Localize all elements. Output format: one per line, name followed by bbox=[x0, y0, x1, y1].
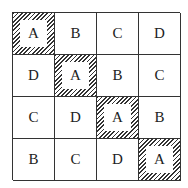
cell-letter: B bbox=[154, 109, 164, 126]
cell-letter: C bbox=[70, 151, 80, 168]
cell-letter: D bbox=[70, 109, 81, 126]
latin-square-grid: A B C D D A B C C D A B B C D A bbox=[12, 12, 180, 180]
grid-cell-highlighted: A bbox=[97, 97, 139, 139]
cell-letter: A bbox=[70, 67, 81, 84]
grid-cell: B bbox=[139, 97, 181, 139]
grid-cell: B bbox=[97, 55, 139, 97]
cell-letter: A bbox=[154, 151, 165, 168]
cell-letter: B bbox=[70, 25, 80, 42]
grid-cell-highlighted: A bbox=[139, 139, 181, 181]
cell-letter: B bbox=[28, 151, 38, 168]
grid-cell: D bbox=[13, 55, 55, 97]
grid-cell: C bbox=[13, 97, 55, 139]
cell-letter: D bbox=[112, 151, 123, 168]
grid-cell: D bbox=[55, 97, 97, 139]
cell-letter: A bbox=[28, 25, 39, 42]
grid-cell: B bbox=[55, 13, 97, 55]
cell-letter: D bbox=[28, 67, 39, 84]
cell-letter: B bbox=[112, 67, 122, 84]
grid-cell-highlighted: A bbox=[55, 55, 97, 97]
cell-letter: C bbox=[28, 109, 38, 126]
grid-cell: C bbox=[97, 13, 139, 55]
grid-cell-highlighted: A bbox=[13, 13, 55, 55]
cell-letter: C bbox=[154, 67, 164, 84]
cell-letter: D bbox=[154, 25, 165, 42]
grid-cell: B bbox=[13, 139, 55, 181]
cell-letter: C bbox=[112, 25, 122, 42]
grid-cell: D bbox=[97, 139, 139, 181]
cell-letter: A bbox=[112, 109, 123, 126]
grid-cell: C bbox=[55, 139, 97, 181]
grid-cell: D bbox=[139, 13, 181, 55]
grid-cell: C bbox=[139, 55, 181, 97]
